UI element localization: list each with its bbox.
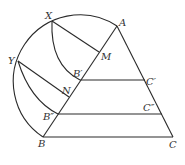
label-X: X (44, 10, 53, 21)
geometry-diagram: A X Y M B′ C′ N B″ C″ B C (0, 0, 185, 165)
label-C1: C′ (146, 76, 157, 87)
label-C: C (169, 139, 177, 150)
label-B2: B″ (42, 111, 54, 122)
label-A: A (118, 17, 126, 28)
semicircle-arc (13, 15, 117, 137)
label-N: N (61, 85, 72, 96)
label-B1: B′ (72, 68, 83, 79)
arc-Y-B2 (18, 61, 58, 114)
segment-AC (117, 26, 173, 137)
label-B: B (37, 138, 45, 149)
segment-AB (43, 26, 117, 137)
segment-XM (52, 21, 99, 52)
label-M: M (100, 51, 112, 62)
label-C2: C″ (143, 102, 155, 113)
